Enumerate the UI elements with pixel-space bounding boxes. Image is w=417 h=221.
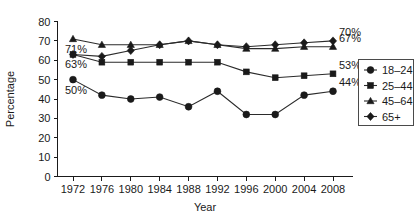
y-tick-label: 20	[38, 132, 50, 144]
y-tick-label: 60	[38, 54, 50, 66]
start-value-label: 63%	[65, 58, 87, 70]
x-tick-label: 2000	[263, 183, 287, 195]
line-chart: 01020304050607080 1972197619801984198819…	[0, 0, 417, 221]
series-65+	[69, 37, 336, 61]
legend-label: 45–64	[382, 95, 413, 107]
y-tick-label: 10	[38, 151, 50, 163]
data-point	[128, 59, 134, 65]
data-point	[186, 59, 192, 65]
y-tick-label: 40	[38, 93, 50, 105]
x-tick-label: 1996	[234, 183, 258, 195]
x-tick-label: 1972	[61, 183, 85, 195]
data-point	[330, 71, 336, 77]
x-tick-label: 2004	[292, 183, 316, 195]
legend-label: 65+	[382, 111, 401, 123]
data-point	[301, 39, 308, 47]
data-point	[98, 92, 105, 99]
y-tick-label: 70	[38, 35, 50, 47]
data-point	[70, 76, 77, 83]
y-tick-label: 0	[44, 171, 50, 183]
x-axis-ticks: 1972197619801984198819921996200020042008	[61, 177, 345, 195]
end-value-label: 44%	[339, 76, 361, 88]
data-point	[243, 69, 249, 75]
data-point	[156, 94, 163, 101]
series-line	[73, 41, 333, 57]
y-tick-label: 30	[38, 112, 50, 124]
series-25-44	[70, 52, 336, 81]
data-point	[330, 88, 337, 95]
x-axis-title: Year	[194, 201, 217, 213]
y-tick-label: 80	[38, 16, 50, 28]
data-point	[127, 96, 134, 103]
data-point	[157, 59, 163, 65]
chart-canvas: 01020304050607080 1972197619801984198819…	[0, 0, 417, 221]
data-point	[272, 75, 278, 81]
series-line	[73, 54, 333, 77]
annotation-layer: 50%44%63%53%71%67%70%	[65, 26, 361, 96]
series-18-24	[70, 76, 337, 118]
data-point	[272, 41, 279, 49]
x-tick-label: 1992	[205, 183, 229, 195]
data-point	[301, 92, 308, 99]
series-line	[73, 80, 333, 115]
legend-swatch-marker	[367, 67, 374, 74]
y-axis-title: Percentage	[4, 71, 16, 127]
end-value-label: 70%	[339, 26, 361, 38]
start-value-label: 71%	[65, 43, 87, 55]
end-value-label: 53%	[339, 59, 361, 71]
x-tick-label: 1988	[176, 183, 200, 195]
data-point	[69, 35, 76, 41]
legend-label: 18–24	[382, 64, 413, 76]
data-point	[185, 103, 192, 110]
data-point	[329, 37, 336, 45]
x-tick-label: 1980	[119, 183, 143, 195]
data-point	[243, 111, 250, 118]
legend-label: 25–44	[382, 80, 413, 92]
data-point	[215, 59, 221, 65]
y-axis-ticks: 01020304050607080	[38, 16, 57, 183]
data-point	[272, 111, 279, 118]
y-tick-label: 50	[38, 74, 50, 86]
series-layer	[69, 35, 336, 118]
x-tick-label: 2008	[321, 183, 345, 195]
chart-legend[interactable]: 18–2425–4445–6465+	[359, 60, 414, 126]
x-tick-label: 1984	[147, 183, 171, 195]
data-point	[214, 88, 221, 95]
x-tick-label: 1976	[90, 183, 114, 195]
start-value-label: 50%	[65, 84, 87, 96]
legend-swatch-marker	[368, 83, 374, 89]
data-point	[301, 73, 307, 79]
data-point	[127, 47, 134, 55]
